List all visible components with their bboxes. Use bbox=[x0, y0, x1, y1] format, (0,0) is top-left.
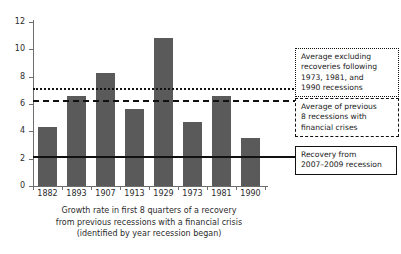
bar-1990 bbox=[241, 138, 260, 186]
bar-1913 bbox=[125, 109, 144, 186]
legend-average-previous-8: Average of previous 8 recessions with fi… bbox=[295, 98, 399, 137]
x-axis-label-1981: 1981 bbox=[207, 190, 236, 198]
y-tick-label-4: 4 bbox=[20, 127, 25, 135]
bar-1929 bbox=[154, 38, 173, 186]
bar-1893 bbox=[67, 96, 86, 186]
y-tick-label-2: 2 bbox=[20, 155, 25, 163]
y-tick-8: 8 bbox=[29, 77, 33, 78]
plot-area: 12 10 8 6 4 2 0 bbox=[33, 22, 265, 186]
legend-dotted-line-4: 1990 recessions bbox=[301, 83, 394, 93]
chart-caption: Growth rate in first 8 quarters of a rec… bbox=[24, 205, 274, 240]
x-axis-label-1913: 1913 bbox=[120, 190, 149, 198]
bar-1981 bbox=[212, 96, 231, 186]
legend-solid-line-2: 2007–2009 recession bbox=[301, 160, 392, 170]
bar-1973 bbox=[183, 122, 202, 186]
legend-dotted-line-2: recoveries following bbox=[301, 62, 394, 72]
reference-line-avg-excluding bbox=[33, 88, 329, 90]
x-axis-label-1990: 1990 bbox=[236, 190, 265, 198]
x-axis-label-1907: 1907 bbox=[91, 190, 120, 198]
y-tick-label-6: 6 bbox=[20, 100, 25, 108]
legend-dashed-line-1: Average of previous bbox=[301, 102, 394, 112]
chart-figure: 12 10 8 6 4 2 0 188218931907191319291973… bbox=[0, 0, 401, 254]
x-axis-label-1893: 1893 bbox=[62, 190, 91, 198]
y-tick-label-12: 12 bbox=[15, 18, 25, 26]
y-tick-10: 10 bbox=[29, 49, 33, 50]
x-tick-end bbox=[265, 186, 266, 190]
legend-average-excluding: Average excluding recoveries following 1… bbox=[295, 48, 399, 97]
caption-line-3: (identified by year recession began) bbox=[24, 228, 274, 240]
legend-dotted-line-1: Average excluding bbox=[301, 52, 394, 62]
y-tick-6: 6 bbox=[29, 104, 33, 105]
y-tick-4: 4 bbox=[29, 131, 33, 132]
reference-line-recovery-2007-2009 bbox=[33, 156, 329, 158]
x-axis-line bbox=[33, 186, 268, 187]
y-tick-2: 2 bbox=[29, 159, 33, 160]
x-axis-label-1929: 1929 bbox=[149, 190, 178, 198]
legend-solid-line-1: Recovery from bbox=[301, 150, 392, 160]
y-tick-label-8: 8 bbox=[20, 73, 25, 81]
caption-line-1: Growth rate in first 8 quarters of a rec… bbox=[24, 205, 274, 217]
legend-dotted-line-3: 1973, 1981, and bbox=[301, 73, 394, 83]
caption-line-2: from previous recessions with a financia… bbox=[24, 217, 274, 229]
legend-recovery-2007-2009: Recovery from 2007–2009 recession bbox=[295, 146, 397, 175]
legend-dashed-line-3: financial crises bbox=[301, 123, 394, 133]
x-axis-label-1882: 1882 bbox=[33, 190, 62, 198]
y-tick-label-10: 10 bbox=[15, 45, 25, 53]
x-axis-label-1973: 1973 bbox=[178, 190, 207, 198]
legend-dashed-line-2: 8 recessions with bbox=[301, 112, 394, 122]
reference-line-avg-previous-8 bbox=[33, 100, 329, 102]
y-tick-12: 12 bbox=[29, 22, 33, 23]
y-tick-label-0: 0 bbox=[20, 182, 25, 190]
